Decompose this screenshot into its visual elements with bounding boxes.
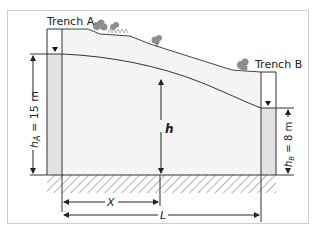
impermeable-base-hatch: [47, 175, 276, 193]
l-label: L: [160, 209, 166, 222]
groundwater-trench-diagram: hA = 15 m hB = 8 m h X L Trench A Trench…: [0, 0, 321, 235]
trench-a-water: [47, 54, 62, 175]
trench-a-label: Trench A: [46, 15, 95, 28]
x-label: X: [106, 196, 115, 209]
trench-b-label: Trench B: [254, 58, 302, 71]
h-label: h: [165, 122, 174, 136]
trench-b-water: [261, 108, 276, 175]
